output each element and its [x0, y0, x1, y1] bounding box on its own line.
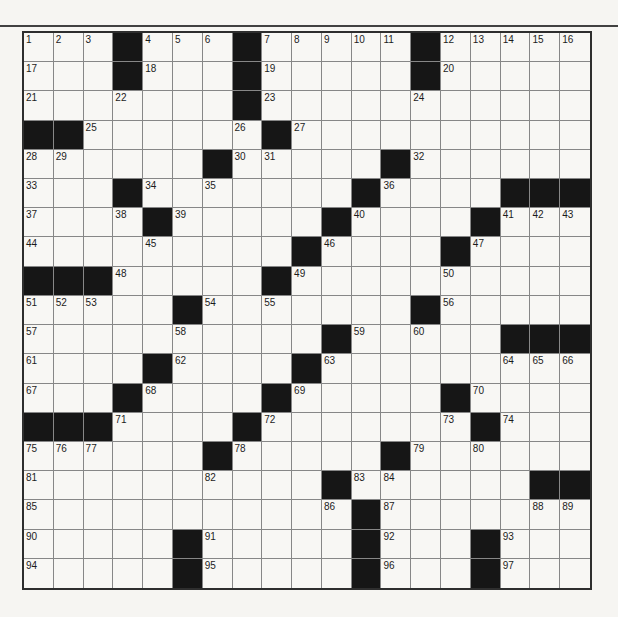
grid-cell[interactable] — [381, 91, 411, 120]
grid-cell[interactable] — [322, 384, 352, 413]
grid-cell[interactable] — [292, 62, 322, 91]
grid-cell[interactable] — [322, 62, 352, 91]
grid-cell[interactable] — [292, 296, 322, 325]
grid-cell[interactable] — [54, 354, 84, 383]
grid-cell[interactable] — [262, 237, 292, 266]
grid-cell[interactable] — [411, 530, 441, 559]
grid-cell[interactable] — [84, 325, 114, 354]
grid-cell[interactable] — [560, 384, 590, 413]
grid-cell[interactable]: 73 — [441, 413, 471, 442]
grid-cell[interactable] — [530, 121, 560, 150]
grid-cell[interactable]: 40 — [352, 208, 382, 237]
grid-cell[interactable] — [143, 91, 173, 120]
grid-cell[interactable] — [84, 208, 114, 237]
grid-cell[interactable]: 33 — [24, 179, 54, 208]
grid-cell[interactable] — [113, 237, 143, 266]
grid-cell[interactable]: 26 — [233, 121, 263, 150]
grid-cell[interactable]: 72 — [262, 413, 292, 442]
grid-cell[interactable]: 59 — [352, 325, 382, 354]
grid-cell[interactable] — [530, 296, 560, 325]
grid-cell[interactable] — [471, 150, 501, 179]
grid-cell[interactable] — [113, 150, 143, 179]
grid-cell[interactable]: 37 — [24, 208, 54, 237]
grid-cell[interactable] — [203, 384, 233, 413]
grid-cell[interactable] — [262, 325, 292, 354]
grid-cell[interactable]: 68 — [143, 384, 173, 413]
grid-cell[interactable]: 4 — [143, 33, 173, 62]
grid-cell[interactable]: 67 — [24, 384, 54, 413]
grid-cell[interactable] — [352, 237, 382, 266]
grid-cell[interactable] — [352, 267, 382, 296]
grid-cell[interactable] — [173, 384, 203, 413]
grid-cell[interactable] — [352, 62, 382, 91]
grid-cell[interactable] — [530, 530, 560, 559]
grid-cell[interactable] — [352, 121, 382, 150]
grid-cell[interactable] — [113, 530, 143, 559]
grid-cell[interactable] — [173, 500, 203, 529]
grid-cell[interactable] — [203, 413, 233, 442]
grid-cell[interactable] — [203, 500, 233, 529]
grid-cell[interactable] — [54, 62, 84, 91]
grid-cell[interactable] — [381, 237, 411, 266]
grid-cell[interactable] — [54, 500, 84, 529]
grid-cell[interactable] — [203, 354, 233, 383]
grid-cell[interactable] — [501, 296, 531, 325]
grid-cell[interactable] — [292, 530, 322, 559]
grid-cell[interactable] — [143, 530, 173, 559]
grid-cell[interactable] — [233, 179, 263, 208]
grid-cell[interactable] — [292, 325, 322, 354]
grid-cell[interactable]: 97 — [501, 559, 531, 588]
grid-cell[interactable] — [411, 267, 441, 296]
grid-cell[interactable] — [501, 237, 531, 266]
grid-cell[interactable]: 81 — [24, 471, 54, 500]
grid-cell[interactable] — [381, 267, 411, 296]
grid-cell[interactable] — [233, 325, 263, 354]
grid-cell[interactable] — [173, 442, 203, 471]
grid-cell[interactable] — [173, 62, 203, 91]
grid-cell[interactable] — [54, 91, 84, 120]
grid-cell[interactable] — [143, 150, 173, 179]
grid-cell[interactable] — [292, 150, 322, 179]
grid-cell[interactable]: 55 — [262, 296, 292, 325]
grid-cell[interactable] — [203, 91, 233, 120]
grid-cell[interactable] — [471, 62, 501, 91]
grid-cell[interactable] — [501, 267, 531, 296]
grid-cell[interactable] — [560, 296, 590, 325]
grid-cell[interactable] — [113, 354, 143, 383]
grid-cell[interactable] — [471, 354, 501, 383]
grid-cell[interactable] — [54, 237, 84, 266]
grid-cell[interactable] — [411, 237, 441, 266]
grid-cell[interactable]: 38 — [113, 208, 143, 237]
grid-cell[interactable] — [530, 413, 560, 442]
grid-cell[interactable] — [84, 471, 114, 500]
grid-cell[interactable] — [560, 559, 590, 588]
grid-cell[interactable] — [530, 384, 560, 413]
grid-cell[interactable] — [292, 413, 322, 442]
grid-cell[interactable] — [143, 471, 173, 500]
grid-cell[interactable] — [441, 121, 471, 150]
grid-cell[interactable] — [54, 208, 84, 237]
grid-cell[interactable] — [411, 413, 441, 442]
grid-cell[interactable] — [471, 121, 501, 150]
grid-cell[interactable] — [54, 530, 84, 559]
grid-cell[interactable] — [233, 354, 263, 383]
grid-cell[interactable]: 74 — [501, 413, 531, 442]
grid-cell[interactable]: 44 — [24, 237, 54, 266]
grid-cell[interactable] — [292, 471, 322, 500]
grid-cell[interactable]: 1 — [24, 33, 54, 62]
grid-cell[interactable] — [84, 354, 114, 383]
grid-cell[interactable] — [441, 530, 471, 559]
grid-cell[interactable]: 78 — [233, 442, 263, 471]
grid-cell[interactable] — [203, 121, 233, 150]
grid-cell[interactable]: 43 — [560, 208, 590, 237]
grid-cell[interactable]: 96 — [381, 559, 411, 588]
grid-cell[interactable] — [203, 267, 233, 296]
grid-cell[interactable] — [84, 559, 114, 588]
grid-cell[interactable] — [173, 237, 203, 266]
grid-cell[interactable]: 3 — [84, 33, 114, 62]
grid-cell[interactable]: 48 — [113, 267, 143, 296]
grid-cell[interactable] — [84, 91, 114, 120]
grid-cell[interactable] — [530, 150, 560, 179]
grid-cell[interactable] — [54, 384, 84, 413]
grid-cell[interactable] — [233, 500, 263, 529]
